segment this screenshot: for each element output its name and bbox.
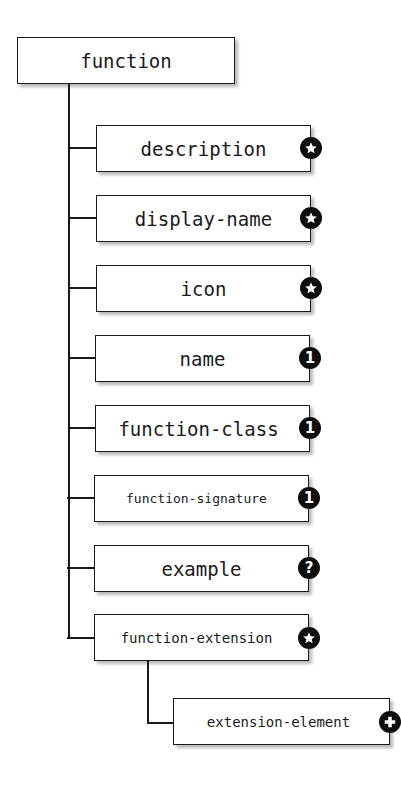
star-icon xyxy=(300,137,322,159)
connector xyxy=(67,637,94,639)
question-icon: ? xyxy=(298,557,320,579)
connector xyxy=(68,427,95,429)
sub-trunk-line xyxy=(147,661,149,724)
node-extension-element: extension-element xyxy=(173,698,390,745)
star-icon xyxy=(300,207,322,229)
connector xyxy=(68,357,95,359)
node-label: display-name xyxy=(135,208,272,230)
node-label: name xyxy=(180,348,226,370)
one-icon: 1 xyxy=(299,417,321,439)
node-label: extension-element xyxy=(207,714,350,730)
node-label: function-class xyxy=(118,418,278,440)
node-function-class: function-class xyxy=(95,405,310,452)
node-example: example xyxy=(94,545,309,592)
connector xyxy=(67,497,94,499)
node-display-name: display-name xyxy=(96,195,311,242)
node-label: example xyxy=(161,558,241,580)
one-icon: 1 xyxy=(298,487,320,509)
star-icon xyxy=(300,277,322,299)
node-function-signature: function-signature xyxy=(94,475,309,522)
one-icon: 1 xyxy=(299,347,321,369)
node-label: function-extension xyxy=(121,630,273,646)
star-icon xyxy=(298,627,320,649)
node-description: description xyxy=(96,125,311,172)
connector xyxy=(68,147,96,149)
plus-icon xyxy=(379,711,401,733)
node-name: name xyxy=(95,335,310,382)
node-label: icon xyxy=(181,278,227,300)
node-icon: icon xyxy=(96,265,311,312)
trunk-line xyxy=(68,84,70,639)
connector xyxy=(68,287,96,289)
node-label: description xyxy=(141,138,267,160)
node-label: function xyxy=(80,50,172,72)
connector xyxy=(67,567,94,569)
connector xyxy=(68,217,96,219)
node-label: function-signature xyxy=(126,491,267,506)
node-function-extension: function-extension xyxy=(94,614,309,661)
connector xyxy=(147,722,173,724)
root-node-function: function xyxy=(17,37,235,84)
